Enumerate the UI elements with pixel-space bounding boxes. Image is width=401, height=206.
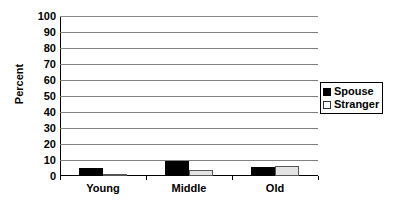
x-axis-label-old: Old xyxy=(235,182,315,194)
y-axis-tick-label: 90 xyxy=(26,27,56,37)
x-axis-tickmark xyxy=(318,176,319,180)
grid-line xyxy=(60,144,318,145)
legend-item-spouse: Spouse xyxy=(323,85,379,98)
grid-line xyxy=(60,96,318,97)
bar-old-spouse xyxy=(251,167,275,176)
grid-line xyxy=(60,32,318,33)
legend-swatch-spouse-icon xyxy=(323,88,331,96)
grid-line xyxy=(60,48,318,49)
plot-area xyxy=(60,16,318,176)
legend-item-stranger: Stranger xyxy=(323,98,379,111)
bar-old-stranger xyxy=(275,166,299,176)
y-axis-tick-label: 10 xyxy=(26,155,56,165)
y-axis-tick-label: 50 xyxy=(26,91,56,101)
y-axis-tick-label: 100 xyxy=(26,11,56,21)
grid-line xyxy=(60,80,318,81)
y-axis-tick-label: 70 xyxy=(26,59,56,69)
bar-chart: Percent 1009080706050403020100 SpouseStr… xyxy=(0,0,401,206)
y-axis-tick-label: 30 xyxy=(26,123,56,133)
grid-line xyxy=(60,16,318,17)
legend-swatch-stranger-icon xyxy=(323,101,331,109)
y-axis-tick-label: 60 xyxy=(26,75,56,85)
y-axis-tick-label: 0 xyxy=(26,171,56,181)
x-axis-label-middle: Middle xyxy=(149,182,229,194)
legend-label: Spouse xyxy=(334,86,374,97)
grid-line xyxy=(60,64,318,65)
bar-young-spouse xyxy=(79,168,103,176)
x-axis-label-young: Young xyxy=(63,182,143,194)
x-axis-tickmark xyxy=(232,176,233,180)
grid-line xyxy=(60,128,318,129)
grid-line xyxy=(60,160,318,161)
y-axis-title: Percent xyxy=(13,49,25,119)
y-axis-tick-labels: 1009080706050403020100 xyxy=(26,0,56,206)
bar-middle-spouse xyxy=(165,161,189,176)
x-axis-tickmark xyxy=(60,176,61,180)
bar-middle-stranger xyxy=(189,170,213,176)
legend-label: Stranger xyxy=(334,99,379,110)
y-axis-tick-label: 40 xyxy=(26,107,56,117)
y-axis-tick-label: 80 xyxy=(26,43,56,53)
grid-line xyxy=(60,112,318,113)
y-axis-tick-label: 20 xyxy=(26,139,56,149)
x-axis-tickmark xyxy=(146,176,147,180)
chart-legend: SpouseStranger xyxy=(320,82,383,114)
bar-young-stranger xyxy=(103,174,127,176)
